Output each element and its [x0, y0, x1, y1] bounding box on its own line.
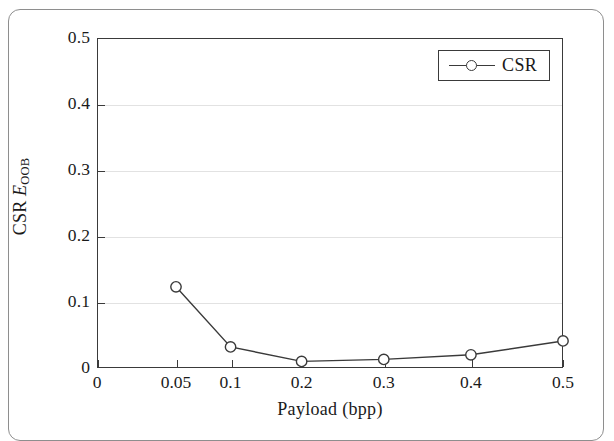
- data-point-marker: [225, 342, 235, 352]
- legend-marker-csr-icon: [449, 58, 495, 72]
- series-csr: [97, 38, 563, 368]
- y-axis-title-subscript: OOB: [18, 158, 32, 185]
- x-tick-label: 0.4: [460, 374, 482, 392]
- y-tick-label: 0.5: [44, 29, 90, 47]
- y-axis-title: CSR EOOB: [10, 107, 31, 287]
- legend[interactable]: CSR: [438, 50, 550, 81]
- y-tick-label: 0.1: [44, 293, 90, 311]
- y-tick-label: 0.2: [44, 227, 90, 245]
- x-tick-label: 0.2: [291, 374, 313, 392]
- data-point-marker: [171, 282, 181, 292]
- y-tick-label: 0: [44, 359, 90, 377]
- data-point-marker: [466, 350, 476, 360]
- x-tick-label: 0.3: [373, 374, 395, 392]
- y-tick-label: 0.3: [44, 161, 90, 179]
- x-tick-label: 0.05: [161, 374, 192, 392]
- x-axis-title: Payload (bpp): [97, 399, 563, 420]
- y-axis-title-symbol: E: [10, 185, 30, 196]
- x-axis-tick-labels: 00.050.10.20.30.40.5: [97, 374, 563, 398]
- x-tick-label: 0.1: [220, 374, 242, 392]
- x-tick-label: 0: [93, 374, 102, 392]
- y-tick-label: 0.4: [44, 95, 90, 113]
- y-axis-title-prefix: CSR: [10, 196, 30, 235]
- y-axis-tick-labels: 00.10.20.30.40.5: [38, 38, 90, 368]
- legend-label-csr: CSR: [502, 56, 537, 74]
- data-point-marker: [296, 356, 306, 366]
- data-point-marker: [379, 354, 389, 364]
- x-tick-label: 0.5: [552, 374, 574, 392]
- data-point-marker: [558, 336, 568, 346]
